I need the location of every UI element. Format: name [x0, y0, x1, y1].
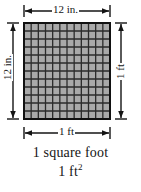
caption-unit-exponent: 2 [78, 162, 83, 172]
dimension-label-top: 12 in. [52, 4, 79, 15]
caption-line-1: 1 square foot [0, 144, 141, 161]
dimension-label-left: 12 in. [2, 54, 13, 81]
dimension-label-right: 1 ft [115, 63, 126, 80]
figure-caption: 1 square foot 1 ft2 [0, 144, 141, 180]
caption-unit-base: 1 ft [58, 164, 78, 179]
square-grid [24, 23, 110, 119]
caption-line-2: 1 ft2 [0, 163, 141, 180]
dimension-label-bottom: 1 ft [58, 126, 75, 137]
